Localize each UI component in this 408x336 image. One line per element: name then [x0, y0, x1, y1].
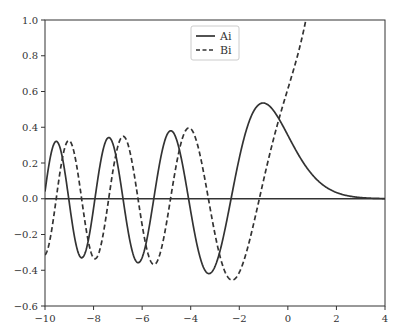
y-tick-label: 0.6 [22, 86, 38, 97]
y-tick-label: 1.0 [22, 15, 38, 26]
series-ai-line [45, 103, 385, 274]
x-tick-label: 4 [382, 313, 388, 324]
legend-bi-label: Bi [220, 44, 232, 57]
legend-box [191, 26, 239, 60]
x-tick-label: 2 [333, 313, 339, 324]
axes: −10−8−6−4−2024−0.6−0.4−0.20.00.20.40.60.… [14, 15, 388, 325]
y-tick-label: 0.4 [22, 122, 38, 133]
x-tick-label: −4 [183, 313, 198, 324]
airy-function-chart: −10−8−6−4−2024−0.6−0.4−0.20.00.20.40.60.… [0, 0, 408, 336]
x-tick-label: −6 [135, 313, 150, 324]
x-tick-label: −10 [34, 313, 55, 324]
x-tick-label: −2 [232, 313, 247, 324]
y-tick-label: 0.8 [22, 50, 38, 61]
y-tick-label: −0.6 [14, 301, 38, 312]
y-tick-label: −0.4 [14, 265, 38, 276]
x-tick-label: −8 [86, 313, 101, 324]
legend-ai-label: Ai [219, 30, 232, 43]
y-tick-label: 0.0 [22, 193, 38, 204]
x-tick-label: 0 [285, 313, 291, 324]
axes-frame [45, 20, 385, 306]
y-tick-label: 0.2 [22, 158, 38, 169]
legend: AiBi [191, 26, 239, 60]
y-tick-label: −0.2 [14, 229, 38, 240]
